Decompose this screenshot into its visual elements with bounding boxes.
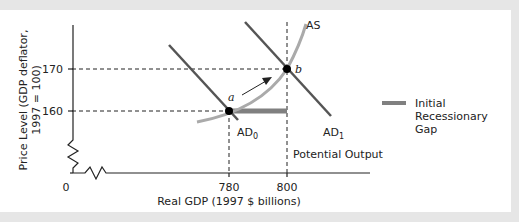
y-axis	[68, 25, 78, 173]
x-tick-label-800: 800	[277, 181, 298, 194]
y-tick-label-170: 170	[42, 63, 63, 76]
point-a-label: a	[228, 91, 235, 104]
ad0-label: AD0	[237, 126, 258, 141]
legend-line-1: Initial	[415, 97, 445, 110]
legend: Initial Recessionary Gap	[382, 97, 488, 136]
x-axis	[73, 167, 370, 179]
svg-text:1997 = 100): 1997 = 100)	[30, 65, 43, 135]
as-curve	[197, 24, 306, 122]
point-b-label: b	[295, 63, 302, 76]
legend-line-2: Recessionary	[415, 110, 488, 123]
legend-line-3: Gap	[415, 123, 437, 136]
x-axis-title: Real GDP (1997 $ billions)	[157, 195, 301, 208]
as-label: AS	[306, 19, 321, 32]
guide-lines	[72, 22, 287, 173]
y-axis-title: Price Level (GDP deflator, 1997 = 100)	[17, 30, 43, 171]
y-tick-label-160: 160	[42, 105, 63, 118]
point-b	[283, 65, 291, 73]
chart-svg: a b AS AD0 AD1 Potential Output 170 160 …	[0, 0, 519, 222]
x-tick-label-0: 0	[63, 181, 70, 194]
svg-text:Price Level (GDP deflator,: Price Level (GDP deflator,	[17, 30, 30, 171]
potential-output-label: Potential Output	[293, 148, 384, 161]
point-a	[225, 107, 233, 115]
ad1-label: AD1	[323, 126, 344, 141]
x-tick-label-780: 780	[219, 181, 240, 194]
